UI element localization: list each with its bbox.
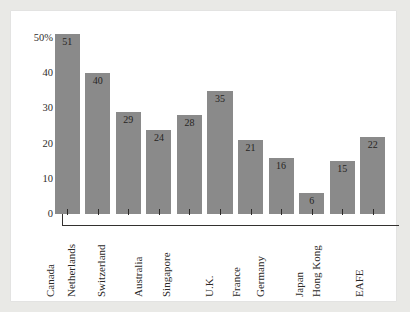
x-axis-label-slot: EAFE	[357, 219, 388, 297]
chart-figure: 01020304050% 514029242835211661522 Canad…	[0, 0, 410, 312]
x-axis-category-label-text: Hong Kong	[311, 245, 322, 297]
chart-panel: 01020304050% 514029242835211661522 Canad…	[11, 11, 396, 301]
x-axis-category-label-text: Canada	[45, 264, 56, 297]
x-axis-category-label-text: Switzerland	[97, 244, 108, 297]
x-axis-tick-mark	[281, 209, 282, 215]
x-axis-category-label-text: Netherlands	[66, 244, 77, 297]
bar-slot: 22	[360, 32, 385, 214]
bar[interactable]: 21	[238, 140, 263, 214]
x-axis-tick-mark	[128, 209, 129, 215]
bar-series: 514029242835211661522	[52, 32, 388, 214]
bar[interactable]: 15	[330, 161, 355, 214]
bar[interactable]: 28	[177, 115, 202, 214]
x-axis-category-label: Australia	[128, 257, 139, 297]
x-axis-category-label: Canada	[40, 264, 51, 297]
x-axis-tick-mark	[220, 209, 221, 215]
bar[interactable]: 22	[360, 137, 385, 214]
bar[interactable]: 35	[207, 91, 232, 214]
x-axis-category-label: Switzerland	[91, 244, 102, 297]
bar[interactable]: 16	[269, 158, 294, 214]
bar-value-label: 51	[55, 36, 80, 47]
bar-value-label: 35	[207, 93, 232, 104]
x-axis-tick-mark	[189, 209, 190, 215]
bar-slot: 24	[146, 32, 171, 214]
bar-value-label: 40	[85, 75, 110, 86]
x-axis-tick-mark	[373, 209, 374, 215]
x-axis-category-label-text: Singapore	[162, 252, 173, 297]
x-axis-category-label-text: Germany	[255, 256, 266, 297]
x-axis-tick-mark	[98, 209, 99, 215]
x-axis-tick-mark	[159, 209, 160, 215]
x-axis-category-label: U.K.	[198, 276, 209, 297]
y-axis-tick-label: 50%	[34, 33, 53, 44]
bar-slot: 28	[177, 32, 202, 214]
x-axis-category-label: Germany	[250, 256, 261, 297]
x-axis-category-label-text: Australia	[133, 257, 144, 297]
x-axis-category-label-text: France	[230, 267, 241, 297]
x-axis-category-label: EAFE	[348, 270, 359, 298]
x-axis-category-label-text: Japan	[294, 272, 305, 297]
x-axis-ticks	[52, 208, 388, 215]
bar-value-label: 29	[116, 114, 141, 125]
x-axis-category-label-text: U.K.	[204, 276, 215, 297]
bar[interactable]: 51	[55, 34, 80, 214]
x-axis-category-label-text: EAFE	[353, 270, 364, 298]
bar[interactable]: 29	[116, 112, 141, 214]
bar-value-label: 28	[177, 117, 202, 128]
bar-slot: 21	[238, 32, 263, 214]
bar-slot: 29	[116, 32, 141, 214]
bar-value-label: 21	[238, 142, 263, 153]
bar-value-label: 15	[330, 163, 355, 174]
bar-slot: 51	[55, 32, 80, 214]
bar-slot: 15	[330, 32, 355, 214]
x-axis-category-label: Netherlands	[60, 244, 71, 297]
bar-slot: 35	[207, 32, 232, 214]
bar-value-label: 22	[360, 139, 385, 150]
x-axis-category-label: Singapore	[156, 252, 167, 297]
x-axis-tick-mark	[342, 209, 343, 215]
bar-slot: 40	[85, 32, 110, 214]
bar[interactable]: 40	[85, 73, 110, 214]
x-axis-category-label: Japan	[288, 272, 299, 297]
x-axis-category-label: France	[225, 267, 236, 297]
bar-slot: 6	[299, 32, 324, 214]
x-axis-tick-mark	[67, 209, 68, 215]
bar-slot: 16	[269, 32, 294, 214]
bar-value-label: 24	[146, 132, 171, 143]
x-axis-category-label: Hong Kong	[305, 245, 316, 297]
bar[interactable]: 24	[146, 130, 171, 214]
x-axis-tick-mark	[251, 209, 252, 215]
bar-value-label: 16	[269, 160, 294, 171]
bar-value-label: 6	[299, 195, 324, 206]
x-axis-category-labels: CanadaNetherlandsSwitzerlandAustraliaSin…	[52, 219, 388, 297]
x-axis-tick-mark	[312, 209, 313, 215]
